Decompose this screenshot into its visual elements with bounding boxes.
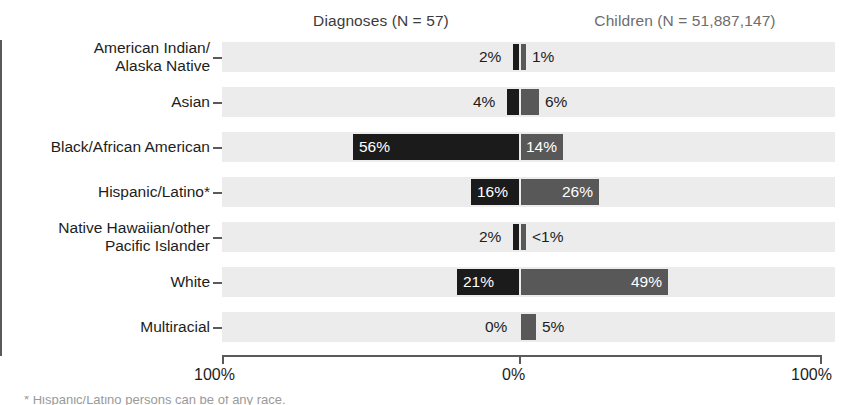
x-axis-label-center: 0% [502, 366, 525, 384]
race-ethnicity-diverging-bar-chart: Diagnoses (N = 57) Children (N = 51,887,… [0, 0, 859, 405]
y-tick [213, 237, 222, 239]
category-label: White [170, 273, 210, 291]
legend-label-diagnoses: Diagnoses (N = 57) [236, 12, 526, 30]
bar-children [521, 89, 539, 115]
category-label: Multiracial [140, 318, 210, 336]
value-label-diagnoses: 56% [359, 139, 390, 155]
bar-diagnoses [513, 44, 519, 70]
y-tick [213, 282, 222, 284]
value-label-children: 49% [631, 274, 662, 290]
footnote-text: * Hispanic/Latino persons can be of any … [24, 396, 859, 405]
y-tick [213, 147, 222, 149]
row-band [222, 42, 835, 72]
value-label-children: 5% [542, 319, 564, 335]
y-tick [213, 327, 222, 329]
category-label: Hispanic/Latino* [98, 183, 210, 201]
value-label-children: 6% [545, 94, 567, 110]
value-label-diagnoses: 16% [477, 184, 508, 200]
bar-diagnoses [507, 89, 519, 115]
y-tick [213, 102, 222, 104]
bar-children [521, 314, 536, 340]
y-tick [213, 192, 222, 194]
x-tick-left [222, 355, 224, 364]
x-tick-center [519, 355, 521, 364]
category-label: Native Hawaiian/other Pacific Islander [58, 219, 210, 255]
legend-label-children: Children (N = 51,887,147) [520, 12, 850, 30]
value-label-children: 1% [532, 49, 554, 65]
value-label-children: 26% [562, 184, 593, 200]
x-tick-right [820, 355, 822, 364]
value-label-diagnoses: 2% [479, 229, 501, 245]
value-label-diagnoses: 4% [473, 94, 495, 110]
category-label: Asian [171, 93, 210, 111]
footnote-partial: * Hispanic/Latino persons can be of any … [0, 396, 859, 405]
value-label-children: 14% [526, 139, 557, 155]
x-axis-label-left: 100% [194, 366, 235, 384]
value-label-diagnoses: 21% [463, 274, 494, 290]
value-label-diagnoses: 0% [485, 319, 507, 335]
x-axis-label-right: 100% [791, 366, 832, 384]
value-label-diagnoses: 2% [479, 49, 501, 65]
row-band [222, 222, 835, 252]
x-axis-line [222, 355, 821, 357]
bar-children [521, 44, 526, 70]
bar-children [521, 224, 526, 250]
bar-diagnoses [513, 224, 519, 250]
y-axis-line [0, 40, 2, 356]
category-label: American Indian/ Alaska Native [94, 39, 210, 75]
y-tick [213, 57, 222, 59]
value-label-children: <1% [532, 229, 563, 245]
category-label: Black/African American [51, 138, 210, 156]
